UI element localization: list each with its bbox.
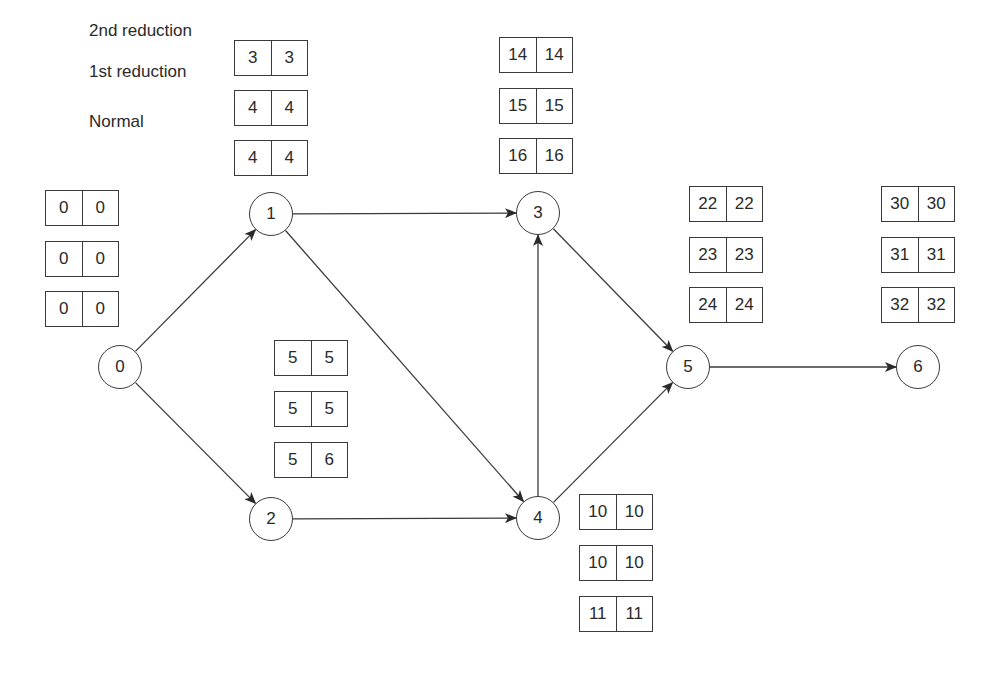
earliest-time: 10 <box>580 495 616 529</box>
earliest-time: 4 <box>235 91 271 125</box>
latest-time: 22 <box>726 187 763 221</box>
activity-arrow-4-5 <box>554 383 673 503</box>
event-node-0: 0 <box>98 345 142 389</box>
activity-arrow-0-2 <box>136 383 256 504</box>
time-box-node6-1st-reduction: 31 31 <box>881 237 955 273</box>
latest-time: 32 <box>918 288 955 322</box>
latest-time: 10 <box>616 495 653 529</box>
time-box-node2-2nd-reduction: 5 5 <box>274 340 348 376</box>
earliest-time: 4 <box>235 141 271 175</box>
time-box-node5-2nd-reduction: 22 22 <box>689 186 763 222</box>
latest-time: 14 <box>536 38 573 72</box>
latest-time: 23 <box>726 238 763 272</box>
time-box-node0-1st-reduction: 0 0 <box>45 241 119 277</box>
activity-arrow-1-3 <box>293 213 516 214</box>
latest-time: 30 <box>918 187 955 221</box>
time-box-node2-normal: 5 6 <box>274 442 348 478</box>
latest-time: 5 <box>311 392 348 426</box>
activity-arrow-3-5 <box>553 229 672 351</box>
legend-label-2nd-reduction: 2nd reduction <box>89 21 192 41</box>
latest-time: 0 <box>82 292 119 326</box>
latest-time: 4 <box>271 141 308 175</box>
time-box-node6-normal: 32 32 <box>881 287 955 323</box>
earliest-time: 22 <box>690 187 726 221</box>
earliest-time: 23 <box>690 238 726 272</box>
event-node-5: 5 <box>666 345 710 389</box>
earliest-time: 14 <box>500 38 536 72</box>
node-label: 4 <box>533 508 542 528</box>
latest-time: 11 <box>616 597 653 631</box>
time-box-node0-2nd-reduction: 0 0 <box>45 190 119 226</box>
latest-time: 3 <box>271 41 308 75</box>
latest-time: 5 <box>311 341 348 375</box>
legend-label-1st-reduction: 1st reduction <box>89 62 186 82</box>
earliest-time: 16 <box>500 139 536 173</box>
node-label: 5 <box>683 357 692 377</box>
time-box-node1-normal: 4 4 <box>234 140 308 176</box>
earliest-time: 3 <box>235 41 271 75</box>
latest-time: 0 <box>82 242 119 276</box>
event-node-4: 4 <box>516 496 560 540</box>
latest-time: 10 <box>616 546 653 580</box>
earliest-time: 5 <box>275 443 311 477</box>
node-label: 1 <box>266 204 275 224</box>
time-box-node4-normal: 11 11 <box>579 596 653 632</box>
earliest-time: 30 <box>882 187 918 221</box>
time-box-node0-normal: 0 0 <box>45 291 119 327</box>
latest-time: 15 <box>536 89 573 123</box>
activity-arrow-0-1 <box>135 230 255 352</box>
earliest-time: 10 <box>580 546 616 580</box>
time-box-node4-2nd-reduction: 10 10 <box>579 494 653 530</box>
time-box-node3-2nd-reduction: 14 14 <box>499 37 573 73</box>
time-box-node2-1st-reduction: 5 5 <box>274 391 348 427</box>
latest-time: 4 <box>271 91 308 125</box>
time-box-node5-1st-reduction: 23 23 <box>689 237 763 273</box>
earliest-time: 0 <box>46 191 82 225</box>
node-label: 3 <box>533 203 542 223</box>
earliest-time: 15 <box>500 89 536 123</box>
network-edges <box>0 0 987 678</box>
latest-time: 6 <box>311 443 348 477</box>
earliest-time: 0 <box>46 292 82 326</box>
time-box-node6-2nd-reduction: 30 30 <box>881 186 955 222</box>
earliest-time: 31 <box>882 238 918 272</box>
time-box-node1-1st-reduction: 4 4 <box>234 90 308 126</box>
time-box-node1-2nd-reduction: 3 3 <box>234 40 308 76</box>
earliest-time: 5 <box>275 341 311 375</box>
latest-time: 0 <box>82 191 119 225</box>
time-box-node4-1st-reduction: 10 10 <box>579 545 653 581</box>
earliest-time: 32 <box>882 288 918 322</box>
legend-label-normal: Normal <box>89 112 144 132</box>
earliest-time: 11 <box>580 597 616 631</box>
latest-time: 31 <box>918 238 955 272</box>
event-node-3: 3 <box>516 191 560 235</box>
latest-time: 16 <box>536 139 573 173</box>
time-box-node3-1st-reduction: 15 15 <box>499 88 573 124</box>
event-node-6: 6 <box>896 345 940 389</box>
node-label: 0 <box>115 357 124 377</box>
time-box-node5-normal: 24 24 <box>689 287 763 323</box>
earliest-time: 24 <box>690 288 726 322</box>
node-label: 2 <box>266 509 275 529</box>
activity-arrow-2-4 <box>293 518 516 519</box>
time-box-node3-normal: 16 16 <box>499 138 573 174</box>
event-node-1: 1 <box>249 192 293 236</box>
event-node-2: 2 <box>249 497 293 541</box>
latest-time: 24 <box>726 288 763 322</box>
node-label: 6 <box>913 357 922 377</box>
earliest-time: 5 <box>275 392 311 426</box>
earliest-time: 0 <box>46 242 82 276</box>
